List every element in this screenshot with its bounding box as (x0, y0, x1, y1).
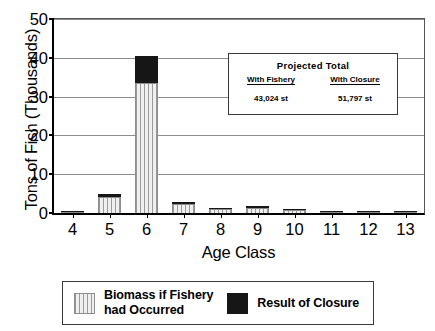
bar-segment-biomass (135, 83, 157, 213)
bar-segment-biomass (98, 197, 120, 213)
projected-total-title: Projected Total (229, 60, 397, 71)
x-tick-label: 7 (179, 220, 188, 239)
y-tick-mark (49, 18, 54, 20)
legend-label-closure: Result of Closure (257, 296, 359, 311)
x-tick-mark (110, 213, 111, 218)
projected-total-panel: Projected Total With Fishery With Closur… (228, 53, 398, 115)
y-tick-mark (49, 96, 54, 98)
x-tick-label: 4 (68, 220, 77, 239)
x-tick-mark (184, 213, 185, 218)
x-tick-label: 11 (323, 220, 340, 239)
x-tick-mark (295, 213, 296, 218)
legend-item-biomass: Biomass if Fishery had Occurred (74, 288, 213, 318)
y-gridline (54, 174, 424, 175)
x-tick-label: 10 (285, 220, 303, 239)
x-tick-mark (369, 213, 370, 218)
legend-swatch-closure-icon (227, 293, 248, 314)
y-tick-label: 30 (30, 87, 48, 106)
legend-swatch-biomass-icon (74, 293, 95, 314)
y-tick-label: 0 (39, 204, 48, 223)
y-axis-title: Tons of Fish (Thousands) (22, 15, 41, 225)
bar-segment-closure (135, 56, 157, 83)
x-tick-label: 13 (396, 220, 414, 239)
y-tick-label: 20 (30, 126, 48, 145)
bar-stack[interactable] (135, 56, 157, 213)
y-gridline (54, 135, 424, 136)
legend-label-biomass: Biomass if Fishery had Occurred (104, 288, 213, 318)
x-tick-mark (221, 213, 222, 218)
projected-total-value-with-fishery: 43,024 st (229, 94, 313, 103)
x-tick-label: 8 (216, 220, 225, 239)
y-tick-label: 40 (30, 48, 48, 67)
y-tick-label: 50 (30, 10, 48, 29)
y-tick-mark (49, 212, 54, 214)
legend-item-closure: Result of Closure (227, 293, 359, 314)
bar-stack[interactable] (172, 202, 194, 213)
x-axis-title: Age Class (52, 243, 425, 262)
plot-inner: 0102030405045678910111213 (54, 19, 424, 213)
x-tick-mark (147, 213, 148, 218)
chart-legend: Biomass if Fishery had Occurred Result o… (62, 281, 374, 325)
projected-total-headers: With Fishery With Closure (229, 75, 397, 84)
x-tick-label: 12 (359, 220, 377, 239)
plot-area: 0102030405045678910111213 (52, 18, 425, 215)
bar-segment-biomass (172, 204, 194, 213)
bar-stack[interactable] (246, 206, 268, 213)
projected-total-header-with-closure: With Closure (313, 75, 397, 84)
x-tick-mark (406, 213, 407, 218)
y-tick-mark (49, 173, 54, 175)
chart-figure: Tons of Fish (Thousands) 010203040504567… (0, 0, 435, 331)
bar-stack[interactable] (98, 194, 120, 213)
y-tick-mark (49, 57, 54, 59)
x-tick-label: 9 (253, 220, 262, 239)
x-tick-mark (73, 213, 74, 218)
x-tick-label: 5 (105, 220, 114, 239)
y-tick-mark (49, 134, 54, 136)
x-tick-label: 6 (142, 220, 151, 239)
projected-total-values: 43,024 st 51,797 st (229, 94, 397, 103)
x-tick-mark (258, 213, 259, 218)
y-gridline (54, 19, 424, 20)
y-tick-label: 10 (30, 165, 48, 184)
projected-total-value-with-closure: 51,797 st (313, 94, 397, 103)
x-tick-mark (332, 213, 333, 218)
projected-total-header-with-fishery: With Fishery (229, 75, 313, 84)
